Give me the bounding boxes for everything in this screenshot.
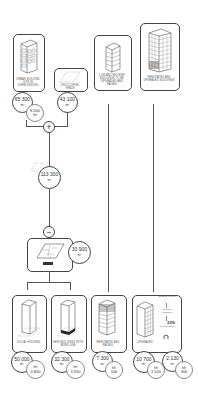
urban-building-label: Urban building site in surrounding: [14, 78, 42, 87]
bracket-top-left: [26, 120, 27, 127]
minus-operator: −: [43, 226, 55, 238]
social-housing-label: Social housing: [14, 341, 43, 344]
mid-rise-building-icon: [104, 41, 122, 73]
bracket-bottom-right: [70, 282, 71, 290]
subtracted-area-circle: 30 900 m²: [68, 241, 91, 264]
households-unit: hh: [33, 113, 37, 118]
urban-building-icon: [17, 38, 39, 74]
area-unit: m²: [171, 362, 175, 368]
upgraded-label: Upgraded: [134, 341, 156, 344]
area-unit: m²: [142, 362, 146, 368]
area-unit: m²: [21, 103, 25, 109]
renovated-raised-households-circle: hh 100: [105, 361, 123, 379]
connector-minus-to-bottom: [49, 271, 50, 282]
bracket-bottom-horizontal: [27, 282, 71, 283]
vacant-plot-icon: [58, 70, 82, 84]
area-unit: m²: [20, 362, 24, 368]
plus-operator: +: [43, 121, 55, 133]
subtracted-area-unit: m²: [78, 253, 82, 259]
mixed-use-households-circle: hh 3 900: [66, 360, 85, 379]
renovated-raised-label: Renovated and raised: [92, 341, 124, 347]
subtracted-bar-icon: [43, 262, 53, 265]
renovated-building-icon: [97, 298, 119, 338]
upgraded-tower-icon: [135, 300, 157, 340]
area-unit: m²: [60, 362, 64, 368]
connector-plus-to-sum: [49, 133, 50, 167]
unoccupied-space-label: Unoccupied space: [56, 84, 84, 90]
subdivided-plot-icon: [34, 240, 66, 262]
unoccupied-space-area-circle: 43 100 m²: [57, 92, 78, 113]
mixed-use-block-icon: [55, 298, 81, 340]
social-housing-block-icon: [16, 298, 42, 340]
households-value: 3 900: [70, 370, 80, 375]
households-value: 300: [181, 370, 188, 375]
scale-top-label: Building current: [158, 296, 176, 299]
total-area-circle: 113 300 m²: [38, 166, 61, 189]
social-housing-households-circle: hh 4 800: [26, 360, 45, 379]
connector-low-rise-to-renovated: [108, 104, 109, 292]
energy-households-circle: hh 300: [175, 361, 193, 379]
households-value: 100: [111, 370, 118, 375]
bracket-top-right: [67, 112, 68, 127]
area-unit: m²: [101, 362, 105, 368]
bracket-bottom-left: [27, 282, 28, 290]
urban-building-households-circle: 8 000 hh: [26, 104, 44, 122]
households-glyph-icon: [163, 334, 169, 340]
scale-middle-label: Building upgraded: [158, 309, 176, 315]
connector-sum-to-minus: [49, 189, 50, 227]
area-unit: m²: [66, 103, 70, 109]
connector-high-rise-to-upgraded: [153, 104, 154, 292]
high-rise-building-icon: [147, 27, 173, 73]
households-value: 1 500: [151, 370, 161, 375]
low-rise-buildings-label: Low and mid rise buildings to be upgrade…: [96, 74, 128, 86]
scale-bottom-label: New standard: [158, 326, 176, 329]
mixed-use-label: New buildings with mixed use: [52, 341, 84, 347]
high-rise-buildings-label: Renovated and upgraded buildings: [142, 76, 176, 82]
households-value: 4 800: [30, 370, 40, 375]
total-area-unit: m²: [48, 178, 52, 184]
